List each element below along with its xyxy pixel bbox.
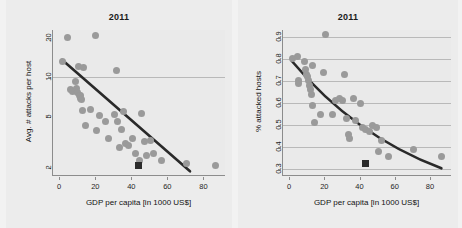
x-axis-title-right: GDP per capita [in 1000 US$] [314,198,419,207]
plot-area-left [52,30,225,176]
y-axis-tick-label: 0.5 [274,116,283,134]
x-axis-tick [430,177,431,180]
y-axis-tick-label: 10 [44,68,53,86]
scatter-point [322,31,329,38]
scatter-point [111,111,118,118]
x-axis-tick-label: 20 [91,182,99,191]
scatter-point [113,67,120,74]
scatter-point [212,162,219,169]
y-axis-tick-label: 0.4 [274,138,283,156]
scatter-point [93,127,100,134]
scatter-point [373,124,380,131]
scatter-point [375,148,382,155]
scatter-point [320,69,327,76]
scatter-point [147,137,154,144]
scatter-point [294,53,301,60]
x-axis-tick-label: 0 [287,182,291,191]
x-axis-tick-label: 80 [426,182,434,191]
scatter-point [79,107,86,114]
panel-left-title: 2011 [6,12,232,22]
scatter-point [301,58,308,65]
x-axis-tick [59,177,60,180]
y-axis-tick-label: 0.6 [274,94,283,112]
scatter-point [92,32,99,39]
scatter-point [158,157,165,164]
scatter-point [102,118,109,125]
scatter-point [308,91,315,98]
y-axis-tick-label: 2 [44,159,53,177]
x-axis-tick [324,177,325,180]
x-axis-tick-label: 40 [355,182,363,191]
chart-panel-right: 2011 % attacked hosts GDP per capita [in… [238,0,458,228]
scatter-point [118,126,125,133]
y-axis-tick-label: 0.9 [274,27,283,45]
x-axis-tick [395,177,396,180]
scatter-point [352,117,359,124]
highlighted-data-point [362,160,369,167]
scatter-point [82,122,89,129]
x-axis-tick [289,177,290,180]
x-axis-tick-label: 80 [199,182,207,191]
scatter-point [120,108,127,115]
x-axis-tick-label: 20 [320,182,328,191]
scatter-point [410,146,417,153]
y-axis-title-left: Avg. # attacks per host [24,56,33,148]
scatter-point [138,110,145,117]
y-axis-tick-label: 0.3 [274,160,283,178]
x-axis-tick-label: 0 [57,182,61,191]
plot-area-right [282,30,451,176]
scatter-point [329,111,336,118]
y-axis-tick-label: 0.7 [274,71,283,89]
x-axis-tick [167,177,168,180]
figure-root: 2011 Avg. # attacks per host GDP per cap… [0,0,462,228]
x-axis-tick-label: 60 [163,182,171,191]
scatter-point [385,153,392,160]
x-axis-tick [131,177,132,180]
scatter-point [87,106,94,113]
fit-curve [53,30,226,176]
chart-panel-left: 2011 Avg. # attacks per host GDP per cap… [6,0,232,228]
scatter-point [72,78,79,85]
x-axis-tick [360,177,361,180]
scatter-point [317,111,324,118]
highlighted-data-point [135,162,142,169]
scatter-point [295,80,302,87]
scatter-point [80,64,87,71]
y-axis-tick-label: 5 [44,107,53,125]
x-axis-title-left: GDP per capita [in 1000 US$] [86,198,191,207]
scatter-point [341,71,348,78]
scatter-point [350,95,357,102]
x-axis-tick-label: 60 [391,182,399,191]
x-axis-tick-label: 40 [127,182,135,191]
x-axis-tick [95,177,96,180]
y-axis-tick-label: 20 [44,28,53,46]
scatter-point [78,96,85,103]
scatter-point [183,160,190,167]
y-axis-title-right: % attacked hosts [254,56,263,148]
scatter-point [357,100,364,107]
scatter-point [129,135,136,142]
panel-right-title: 2011 [238,12,458,22]
y-axis-tick-label: 0.8 [274,49,283,67]
scatter-point [343,115,350,122]
scatter-point [309,102,316,109]
scatter-point [438,153,445,160]
x-axis-tick [203,177,204,180]
